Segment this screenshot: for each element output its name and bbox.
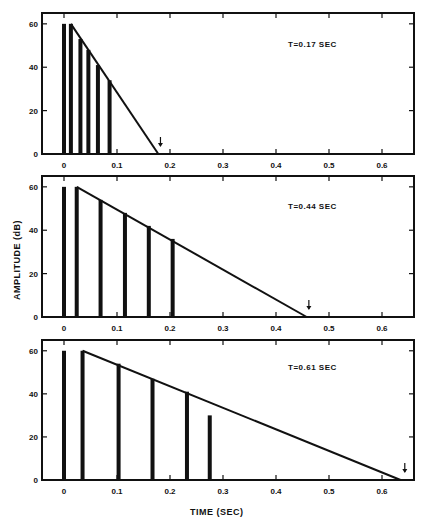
impulse-bar xyxy=(86,50,90,154)
panel-annotation: T=0.17 SEC xyxy=(288,40,337,49)
x-axis-label: TIME (SEC) xyxy=(190,507,244,517)
x-tick-label: 0.6 xyxy=(376,161,388,170)
x-tick-label: 0.3 xyxy=(217,487,229,496)
x-tick-label: 0.4 xyxy=(270,161,282,170)
impulse-bar xyxy=(123,213,127,317)
y-tick-label: 0 xyxy=(34,313,39,322)
impulse-bar xyxy=(96,65,100,154)
y-tick-label: 60 xyxy=(29,347,38,356)
x-tick-label: 0.2 xyxy=(164,324,176,333)
x-tick-label: 0.1 xyxy=(111,487,123,496)
y-tick-label: 20 xyxy=(29,107,38,116)
y-tick-label: 60 xyxy=(29,183,38,192)
x-tick-label: 0 xyxy=(62,161,67,170)
impulse-bar xyxy=(75,187,79,317)
y-tick-label: 20 xyxy=(29,270,38,279)
impulse-bar xyxy=(147,226,151,317)
chart-panel-2: 00.10.20.30.40.50.60204060T=0.44 SEC xyxy=(29,176,414,333)
impulse-bar xyxy=(69,24,73,154)
impulse-bar xyxy=(62,24,66,154)
impulse-bar xyxy=(171,239,175,317)
x-tick-label: 0.2 xyxy=(164,161,176,170)
impulse-bar xyxy=(151,379,155,480)
decay-line xyxy=(83,351,401,480)
y-tick-label: 20 xyxy=(29,433,38,442)
x-tick-label: 0.3 xyxy=(217,161,229,170)
x-tick-label: 0.1 xyxy=(111,161,123,170)
x-tick-label: 0.5 xyxy=(323,487,335,496)
impulse-bar xyxy=(208,415,212,480)
x-tick-label: 0 xyxy=(62,487,67,496)
panel-annotation: T=0.44 SEC xyxy=(288,202,337,211)
y-tick-label: 0 xyxy=(34,150,39,159)
decay-line xyxy=(71,24,158,154)
plot-frame xyxy=(42,176,414,317)
arrow-head-icon xyxy=(306,306,311,310)
panel-annotation: T=0.61 SEC xyxy=(288,363,337,372)
x-tick-label: 0.4 xyxy=(270,324,282,333)
y-tick-label: 0 xyxy=(34,476,39,485)
impulse-bar xyxy=(78,39,82,154)
chart-panel-3: 00.10.20.30.40.50.60204060T=0.61 SEC xyxy=(29,340,414,496)
x-tick-label: 0.1 xyxy=(111,324,123,333)
x-tick-label: 0.5 xyxy=(323,161,335,170)
x-tick-label: 0.4 xyxy=(270,487,282,496)
x-tick-label: 0 xyxy=(62,324,67,333)
x-tick-label: 0.6 xyxy=(376,487,388,496)
y-tick-label: 40 xyxy=(29,226,38,235)
arrow-head-icon xyxy=(402,469,407,473)
decay-line xyxy=(77,187,307,317)
y-tick-label: 40 xyxy=(29,390,38,399)
x-tick-label: 0.6 xyxy=(376,324,388,333)
impulse-bar xyxy=(108,80,112,154)
y-tick-label: 60 xyxy=(29,20,38,29)
impulse-bar xyxy=(62,351,66,480)
y-axis-label: AMPLITUDE (dB) xyxy=(12,200,26,320)
chart-panel-1: 00.10.20.30.40.50.60204060T=0.17 SEC xyxy=(29,13,414,170)
impulse-bar xyxy=(99,200,103,317)
x-tick-label: 0.2 xyxy=(164,487,176,496)
impulse-bar xyxy=(185,392,189,480)
x-tick-label: 0.3 xyxy=(217,324,229,333)
arrow-head-icon xyxy=(158,143,163,147)
impulse-bar xyxy=(62,187,66,317)
y-tick-label: 40 xyxy=(29,63,38,72)
reverberation-decay-figure: 00.10.20.30.40.50.60204060T=0.17 SEC00.1… xyxy=(0,0,428,525)
impulse-bar xyxy=(117,364,121,480)
impulse-bar xyxy=(81,351,85,480)
x-tick-label: 0.5 xyxy=(323,324,335,333)
